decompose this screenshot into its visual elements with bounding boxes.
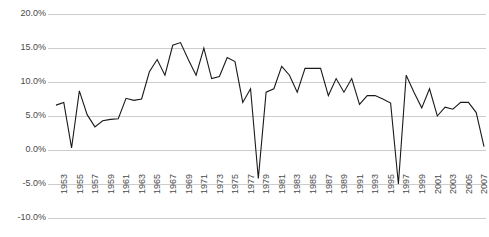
x-tick-label: 2005: [465, 174, 474, 194]
x-tick-label: 1953: [60, 174, 69, 194]
x-tick-label: 1959: [107, 174, 116, 194]
y-tick-label: 15.0%: [20, 43, 46, 52]
x-tick-label: 1965: [153, 174, 162, 194]
x-tick-label: 1961: [122, 174, 131, 194]
x-tick-label: 1997: [402, 174, 411, 194]
x-tick-label: 1969: [185, 174, 194, 194]
x-tick-label: 1975: [231, 174, 240, 194]
series-line: [56, 43, 484, 184]
x-tick-label: 1977: [247, 174, 256, 194]
x-tick-label: 2003: [449, 174, 458, 194]
x-tick-label: 1955: [76, 174, 85, 194]
x-tick-label: 1981: [278, 174, 287, 194]
x-tick-label: 1967: [169, 174, 178, 194]
x-tick-label: 1957: [91, 174, 100, 194]
x-tick-label: 1963: [138, 174, 147, 194]
y-tick-label: 5.0%: [25, 111, 46, 120]
y-axis: 20.0%15.0%10.0%5.0%0.0%-5.0%-10.0%: [0, 0, 46, 237]
y-tick-label: -5.0%: [22, 179, 46, 188]
series-svg: [48, 0, 486, 237]
x-tick-label: 1989: [340, 174, 349, 194]
x-tick-label: 1995: [387, 174, 396, 194]
x-tick-label: 1983: [293, 174, 302, 194]
x-tick-label: 1973: [216, 174, 225, 194]
x-tick-label: 1991: [356, 174, 365, 194]
x-tick-label: 1985: [309, 174, 318, 194]
y-tick-label: 10.0%: [20, 77, 46, 86]
y-tick-label: 20.0%: [20, 9, 46, 18]
x-tick-label: 1993: [371, 174, 380, 194]
y-tick-label: -10.0%: [17, 213, 46, 222]
plot-area: 1953195519571959196119631965196719691971…: [48, 0, 486, 237]
x-tick-label: 2007: [480, 174, 489, 194]
x-tick-label: 1999: [418, 174, 427, 194]
x-tick-label: 1987: [325, 174, 334, 194]
x-tick-label: 2001: [434, 174, 443, 194]
x-tick-label: 1971: [200, 174, 209, 194]
x-tick-label: 1979: [262, 174, 271, 194]
y-tick-label: 0.0%: [25, 145, 46, 154]
